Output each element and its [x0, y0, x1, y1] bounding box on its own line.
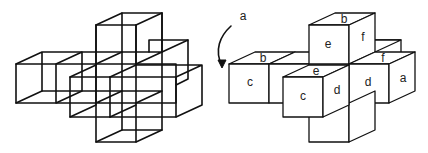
label-front-cube-side: d [334, 83, 341, 97]
figure-canvas: a [0, 0, 428, 153]
label-left-cube-front: c [247, 75, 253, 89]
solid-figure: b e f b c e c d f d a [229, 12, 415, 142]
label-front-cube-front: c [300, 89, 306, 103]
label-top-cube-front: e [325, 37, 332, 51]
arrow-label: a [240, 9, 247, 23]
wireframe-figure [16, 13, 202, 142]
label-left-cube-top: b [260, 51, 267, 65]
cube-diagram: a [0, 0, 428, 153]
label-top-cube-top: b [341, 12, 348, 26]
label-right-cube-side: a [400, 71, 407, 85]
label-front-cube-top: e [313, 64, 320, 78]
label-right-cube-front: d [365, 75, 372, 89]
